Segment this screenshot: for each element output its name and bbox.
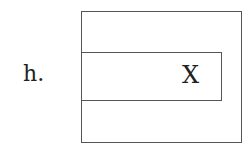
x-mark: X	[182, 63, 199, 87]
figure-label: h.	[23, 63, 44, 85]
inner-box	[81, 52, 222, 101]
